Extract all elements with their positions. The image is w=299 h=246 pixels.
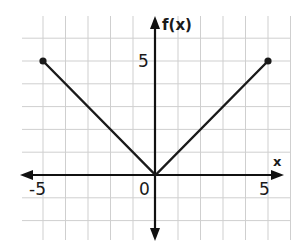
x-axis-label: x bbox=[273, 154, 282, 169]
x-tick-label-origin: 0 bbox=[139, 179, 150, 199]
closed-endpoint-icon bbox=[264, 57, 271, 64]
y-axis-down-arrow-icon bbox=[150, 228, 160, 241]
grid-lines bbox=[22, 16, 291, 240]
y-axis-up-arrow-icon bbox=[150, 16, 160, 29]
x-tick-label-neg5: -5 bbox=[29, 179, 46, 199]
closed-endpoint-icon bbox=[39, 57, 46, 64]
y-axis-label: f(x) bbox=[162, 16, 192, 34]
absolute-value-graph: f(x) x -5 0 5 5 bbox=[0, 0, 299, 246]
y-tick-label-pos5: 5 bbox=[138, 51, 149, 71]
x-axis-right-arrow-icon bbox=[271, 170, 284, 180]
axes bbox=[20, 16, 284, 241]
x-tick-label-pos5: 5 bbox=[259, 179, 270, 199]
